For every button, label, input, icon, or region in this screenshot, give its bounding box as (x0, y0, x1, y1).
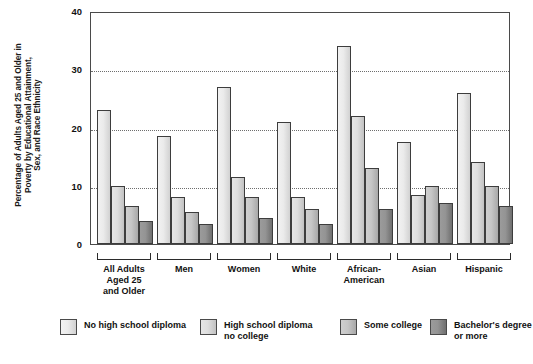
bar-group (397, 13, 453, 244)
bar-group (277, 13, 333, 244)
bar[interactable] (111, 186, 125, 244)
bar[interactable] (277, 122, 291, 244)
bar[interactable] (411, 195, 425, 245)
y-axis-tick-40: 40 (54, 6, 82, 17)
category-label-line: American (324, 275, 404, 286)
legend-label: No high school diploma (84, 320, 186, 331)
bar[interactable] (157, 136, 171, 244)
bar[interactable] (171, 197, 185, 244)
category-bracket (277, 253, 331, 260)
legend-swatch (60, 319, 77, 335)
category-bracket (457, 253, 511, 260)
category-label-line: and Older (84, 286, 164, 297)
bar[interactable] (351, 116, 365, 244)
bar[interactable] (305, 209, 319, 244)
bar-group (157, 13, 213, 244)
legend-label: High school diplomano college (224, 320, 313, 342)
legend-label-line: Bachelor's degree (454, 320, 532, 331)
legend-swatch (340, 319, 357, 335)
bar[interactable] (319, 224, 333, 244)
legend-label-line: High school diploma (224, 320, 313, 331)
plot-area (90, 12, 510, 245)
y-axis-title-line-1: Percentage of Adults Aged 25 and Older i… (14, 0, 24, 250)
legend-label-line: No high school diploma (84, 320, 186, 331)
category-bracket (97, 253, 151, 260)
legend-label-line: or more (454, 331, 532, 342)
category-bracket (337, 253, 391, 260)
y-axis-tick-10: 10 (54, 181, 82, 192)
legend-label: Some college (364, 320, 422, 331)
legend-swatch (430, 319, 447, 335)
bar-group (217, 13, 273, 244)
y-axis-title-line-2: Poverty by Educational Attainment, (24, 0, 34, 250)
category-bracket (157, 253, 211, 260)
bar[interactable] (457, 93, 471, 244)
legend-label-line: Some college (364, 320, 422, 331)
bar[interactable] (199, 224, 213, 244)
bar[interactable] (397, 142, 411, 244)
bar[interactable] (471, 162, 485, 244)
bar[interactable] (185, 212, 199, 244)
bar-group (97, 13, 153, 244)
bar[interactable] (291, 197, 305, 244)
y-axis-tick-20: 20 (54, 123, 82, 134)
bar[interactable] (125, 206, 139, 244)
bar[interactable] (245, 197, 259, 244)
bar[interactable] (439, 203, 453, 244)
bar[interactable] (425, 186, 439, 244)
category-bracket (397, 253, 451, 260)
category-bracket (217, 253, 271, 260)
bar[interactable] (217, 87, 231, 244)
plot-inner (91, 13, 509, 244)
bar[interactable] (485, 186, 499, 244)
category-label-line: Hispanic (444, 264, 524, 275)
category-label: Hispanic (444, 264, 524, 275)
y-axis-tick-0: 0 (54, 239, 82, 250)
bar[interactable] (97, 110, 111, 244)
legend-label: Bachelor's degreeor more (454, 320, 532, 342)
bar-group (337, 13, 393, 244)
bar-group (457, 13, 513, 244)
category-label-line: Aged 25 (84, 275, 164, 286)
y-axis-title-line-3: Sex, and Race Ethnicity (33, 0, 43, 250)
y-axis-title: Percentage of Adults Aged 25 and Older i… (14, 0, 34, 250)
y-axis-tick-30: 30 (54, 64, 82, 75)
bar[interactable] (365, 168, 379, 244)
bar[interactable] (499, 206, 513, 244)
legend-label-line: no college (224, 331, 313, 342)
bar[interactable] (379, 209, 393, 244)
bar[interactable] (231, 177, 245, 244)
legend-swatch (200, 319, 217, 335)
bar[interactable] (139, 221, 153, 244)
bar[interactable] (337, 46, 351, 244)
bar[interactable] (259, 218, 273, 244)
chart-legend: No high school diplomaHigh school diplom… (0, 318, 533, 364)
